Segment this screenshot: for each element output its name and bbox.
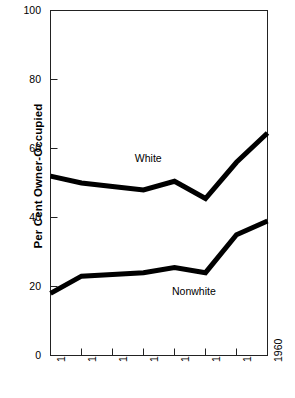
- series-annotation-white: White: [135, 153, 162, 164]
- plot-area: [0, 0, 295, 398]
- chart-figure: Per Cent Owner-Occupied 020406080100 189…: [0, 0, 295, 398]
- series-annotation-nonwhite: Nonwhite: [172, 286, 216, 297]
